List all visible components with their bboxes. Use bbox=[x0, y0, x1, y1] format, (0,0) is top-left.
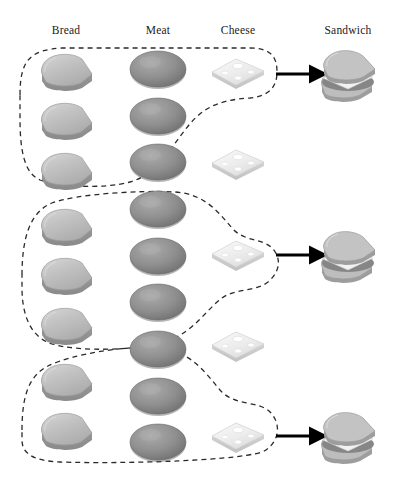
cheese-slice[interactable] bbox=[212, 59, 264, 89]
meat-patty[interactable] bbox=[130, 144, 186, 182]
sandwich-stack[interactable] bbox=[321, 413, 375, 464]
meat-patty[interactable] bbox=[130, 191, 186, 229]
meat-patty[interactable] bbox=[130, 331, 186, 369]
bread-slice[interactable] bbox=[41, 103, 92, 140]
meat-patty[interactable] bbox=[130, 284, 186, 322]
bread-slice[interactable] bbox=[41, 153, 92, 190]
sandwich-stack[interactable] bbox=[321, 232, 375, 283]
meat-patty[interactable] bbox=[130, 51, 186, 89]
cheese-column bbox=[212, 59, 264, 453]
cheese-slice[interactable] bbox=[212, 423, 264, 453]
bread-slice[interactable] bbox=[41, 413, 92, 450]
meat-patty[interactable] bbox=[130, 238, 186, 276]
bread-slice[interactable] bbox=[41, 308, 92, 345]
sandwich-stack[interactable] bbox=[321, 51, 375, 102]
bread-column bbox=[41, 54, 92, 450]
bread-slice[interactable] bbox=[41, 258, 92, 295]
cheese-slice[interactable] bbox=[212, 332, 264, 362]
sandwich-column bbox=[321, 51, 375, 464]
bread-slice[interactable] bbox=[41, 54, 92, 91]
arrow-layer bbox=[276, 74, 312, 436]
cheese-slice[interactable] bbox=[212, 241, 264, 271]
bread-slice[interactable] bbox=[41, 209, 92, 246]
meat-column bbox=[130, 51, 186, 462]
meat-patty[interactable] bbox=[130, 98, 186, 136]
meat-patty[interactable] bbox=[130, 378, 186, 416]
cheese-slice[interactable] bbox=[212, 150, 264, 180]
meat-patty[interactable] bbox=[130, 424, 186, 462]
diagram-canvas bbox=[0, 0, 412, 488]
bread-slice[interactable] bbox=[41, 364, 92, 401]
